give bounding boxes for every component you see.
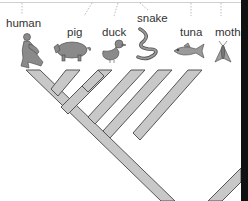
taxon-label-tuna: tuna [180, 26, 202, 38]
cladogram: human pig duck snake tuna moth [0, 0, 248, 201]
branch-root-right [208, 168, 241, 201]
branch-moth [133, 70, 202, 140]
right-border-edge [241, 0, 248, 201]
duck-icon [99, 38, 127, 64]
pig-icon [50, 38, 94, 62]
moth-icon [212, 40, 234, 64]
taxon-label-duck: duck [102, 26, 126, 38]
taxon-label-moth: moth [215, 26, 241, 38]
taxon-label-pig: pig [67, 26, 82, 38]
taxon-label-human: human [6, 17, 41, 29]
tuna-icon [172, 42, 208, 60]
human-icon [15, 32, 47, 70]
snake-icon [134, 25, 166, 63]
taxon-label-snake: snake [137, 12, 168, 24]
